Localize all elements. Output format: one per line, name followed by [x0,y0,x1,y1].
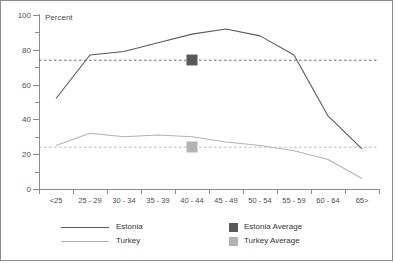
average-marker [187,142,198,153]
legend-item-turkey: Turkey [61,234,143,248]
legend-line-icon-turkey [61,241,109,242]
legend-item-turkey-average: Turkey Average [229,234,302,248]
legend-line-icon-estonia [61,227,109,228]
series-line [56,133,362,178]
legend-label-turkey-average: Turkey Average [244,237,300,245]
legend-square-icon-estonia-average [229,223,238,232]
average-marker [187,55,198,66]
legend-square-icon-turkey-average [229,237,238,246]
legend-label-estonia: Estonia [116,223,143,231]
legend-label-estonia-average: Estonia Average [244,223,302,231]
legend-label-turkey: Turkey [116,237,140,245]
legend-column-averages: Estonia Average Turkey Average [229,220,302,248]
legend-item-estonia: Estonia [61,220,143,234]
chart-figure: Percent 020406080100<2525 - 2930 - 3435 … [0,0,393,261]
series-line [56,29,362,149]
legend-column-series: Estonia Turkey [61,220,143,248]
legend-item-estonia-average: Estonia Average [229,220,302,234]
